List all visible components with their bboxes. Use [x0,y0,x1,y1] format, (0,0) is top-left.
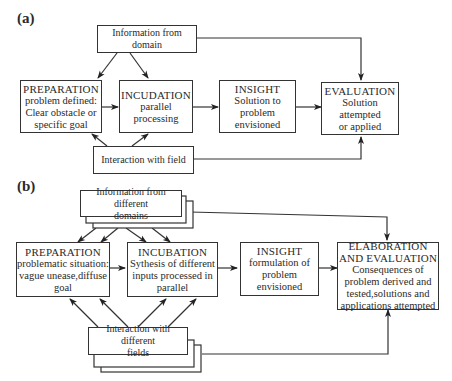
preparation-line: specific goal [34,119,87,131]
incubation-line: parallel [157,282,188,294]
insight-box-a: INSIGHT Solution to problem envisioned [219,80,296,133]
insight-line: envisioned [235,119,281,131]
incubation-box-a: INCUDATION parallel processing [119,80,193,133]
evaluation-line: or applied [339,121,381,133]
preparation-line: vague unease,diffuse [19,270,107,282]
info-from-different-domains-box: Information from different domains [80,190,182,217]
insight-line: formulation of [249,257,310,269]
elaboration-line: Consequences of [352,264,423,276]
evaluation-box-a: EVALUATION Solution attempted or applied [321,82,399,135]
preparation-title: PREPARATION [23,83,99,95]
interaction-with-different-fields-box: Interaction with different fields [88,327,188,355]
interaction-with-field-text: Interaction with field [101,154,185,166]
elaboration-title: ELABORATION [348,240,427,252]
interaction-different-fields-line: Interaction with different [89,323,187,347]
elaboration-evaluation-box: ELABORATION AND EVALUATION Consequences … [337,242,439,310]
evaluation-title: EVALUATION [325,85,396,97]
info-from-domain-box: Information from domain [97,25,197,53]
preparation-title: PREPARATION [25,246,101,258]
incubation-line: parallel processing [120,101,192,125]
insight-line: problem [240,107,275,119]
insight-box-b: INSIGHT formulation of problem envisione… [240,242,319,296]
insight-line: problem [262,269,297,281]
insight-line: envisioned [257,281,303,293]
preparation-line: problem defined: [25,95,97,107]
interaction-with-field-box: Interaction with field [93,146,194,174]
insight-line: Solution to [234,95,280,107]
preparation-line: goal [54,282,72,294]
info-from-domain-text: Information from domain [98,27,196,51]
preparation-box-b: PREPARATION problematic situation: vague… [16,242,110,297]
incubation-title: INCUBATION [138,246,207,258]
preparation-line: problematic situation: [17,258,109,270]
panel-b-label: (b) [17,178,35,195]
panel-a-label: (a) [17,10,35,27]
incubation-line: Sythesis of different [130,258,215,270]
evaluation-title: AND EVALUATION [339,252,437,264]
incubation-box-b: INCUBATION Sythesis of different inputs … [127,242,218,297]
interaction-different-fields-line: fields [127,347,149,359]
elaboration-line: problem derived and [345,276,432,288]
info-different-domains-line: domains [114,210,148,222]
evaluation-line: Solution attempted [322,97,398,121]
insight-title: INSIGHT [235,83,280,95]
connector-arrows [0,0,452,381]
incubation-line: inputs processed in [132,270,213,282]
elaboration-line: applications attempted [341,300,436,312]
insight-title: INSIGHT [257,245,302,257]
incubation-title: INCUDATION [121,89,191,101]
elaboration-line: tested,solutions and [347,288,430,300]
preparation-box-a: PREPARATION problem defined: Clear obsta… [20,80,102,133]
preparation-line: Clear obstacle or [25,107,96,119]
info-different-domains-line: Information from different [81,186,181,210]
